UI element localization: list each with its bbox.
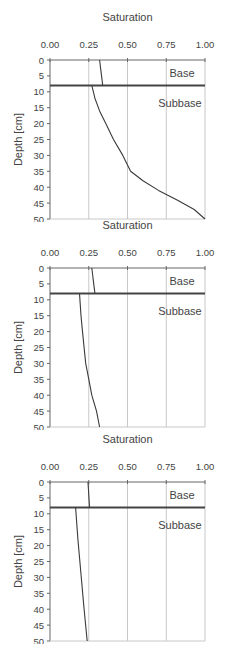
chart-title: Saturation xyxy=(102,219,152,231)
label-base: Base xyxy=(169,67,194,79)
x-tick-label: 0.00 xyxy=(41,461,60,472)
y-tick-label: 35 xyxy=(33,166,44,177)
x-tick-label: 0.50 xyxy=(118,247,137,258)
y-tick-label: 0 xyxy=(39,55,44,66)
y-tick-label: 15 xyxy=(33,310,44,321)
y-tick-label: 0 xyxy=(39,477,44,488)
y-axis-label: Depth [cm] xyxy=(12,113,24,166)
y-tick-label: 45 xyxy=(33,406,44,417)
label-subbase: Subbase xyxy=(158,97,201,109)
chart-title: Saturation xyxy=(102,433,152,445)
saturation-curve-subbase xyxy=(76,507,88,641)
saturation-curve-base xyxy=(92,268,95,293)
y-tick-label: 45 xyxy=(33,620,44,631)
chart-panel-3: Saturation0.000.250.500.751.000510152025… xyxy=(0,422,228,644)
y-tick-label: 45 xyxy=(33,198,44,209)
saturation-curve-subbase xyxy=(80,293,100,427)
label-subbase: Subbase xyxy=(158,519,201,531)
label-base: Base xyxy=(169,275,194,287)
y-tick-label: 10 xyxy=(33,86,44,97)
y-tick-label: 15 xyxy=(33,102,44,113)
y-tick-label: 25 xyxy=(33,556,44,567)
x-tick-label: 1.00 xyxy=(196,247,215,258)
y-tick-label: 20 xyxy=(33,540,44,551)
y-tick-label: 10 xyxy=(33,508,44,519)
y-tick-label: 10 xyxy=(33,294,44,305)
chart-panel-1: Saturation0.000.250.500.751.000510152025… xyxy=(0,0,228,222)
saturation-curve-base xyxy=(100,60,103,85)
y-tick-label: 0 xyxy=(39,263,44,274)
x-tick-label: 0.75 xyxy=(157,461,176,472)
x-tick-label: 0.00 xyxy=(41,247,60,258)
x-tick-label: 0.25 xyxy=(80,247,99,258)
y-axis-label: Depth [cm] xyxy=(12,321,24,374)
y-tick-label: 5 xyxy=(39,70,44,81)
x-tick-label: 1.00 xyxy=(196,39,215,50)
y-axis-label: Depth [cm] xyxy=(12,535,24,588)
y-tick-label: 30 xyxy=(33,150,44,161)
y-tick-label: 20 xyxy=(33,326,44,337)
saturation-depth-chart-1: Saturation0.000.250.500.751.000510152025… xyxy=(0,0,228,222)
y-tick-label: 40 xyxy=(33,390,44,401)
chart-title: Saturation xyxy=(102,11,152,23)
y-tick-label: 15 xyxy=(33,524,44,535)
label-subbase: Subbase xyxy=(158,305,201,317)
y-tick-label: 40 xyxy=(33,604,44,615)
saturation-depth-chart-3: Saturation0.000.250.500.751.000510152025… xyxy=(0,422,228,644)
y-tick-label: 35 xyxy=(33,588,44,599)
y-tick-label: 5 xyxy=(39,492,44,503)
saturation-depth-chart-2: Saturation0.000.250.500.751.000510152025… xyxy=(0,208,228,430)
x-tick-label: 0.25 xyxy=(80,461,99,472)
y-tick-label: 30 xyxy=(33,572,44,583)
y-tick-label: 20 xyxy=(33,118,44,129)
x-tick-label: 0.75 xyxy=(157,247,176,258)
y-tick-label: 40 xyxy=(33,182,44,193)
x-tick-label: 0.50 xyxy=(118,39,137,50)
y-tick-label: 25 xyxy=(33,342,44,353)
x-tick-label: 1.00 xyxy=(196,461,215,472)
y-tick-label: 35 xyxy=(33,374,44,385)
saturation-curve-base xyxy=(88,482,90,507)
y-tick-label: 50 xyxy=(33,636,44,645)
x-tick-label: 0.50 xyxy=(118,461,137,472)
x-tick-label: 0.00 xyxy=(41,39,60,50)
y-tick-label: 25 xyxy=(33,134,44,145)
x-tick-label: 0.75 xyxy=(157,39,176,50)
chart-panel-2: Saturation0.000.250.500.751.000510152025… xyxy=(0,208,228,430)
x-tick-label: 0.25 xyxy=(80,39,99,50)
y-tick-label: 30 xyxy=(33,358,44,369)
label-base: Base xyxy=(169,489,194,501)
y-tick-label: 5 xyxy=(39,278,44,289)
